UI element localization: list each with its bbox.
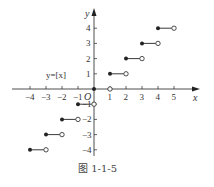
x-tick-label: 1: [108, 92, 113, 102]
x-tick-label: −2: [57, 92, 67, 102]
origin-label: O: [84, 91, 91, 102]
step-segment: [156, 26, 176, 30]
open-endpoint-icon: [44, 148, 48, 152]
open-endpoint-icon: [92, 102, 96, 106]
step-segment: [44, 132, 64, 136]
function-label: y=[x]: [46, 70, 66, 80]
closed-endpoint-icon: [28, 148, 32, 152]
open-endpoint-icon: [60, 132, 64, 136]
closed-endpoint-icon: [92, 87, 96, 91]
open-endpoint-icon: [156, 41, 160, 45]
y-tick-label: 2: [86, 54, 91, 64]
step-segment: [140, 41, 160, 45]
closed-endpoint-icon: [76, 102, 80, 106]
open-endpoint-icon: [140, 56, 144, 60]
open-endpoint-icon: [108, 87, 112, 91]
x-tick-label: −3: [41, 92, 51, 102]
x-tick-label: −4: [25, 92, 35, 102]
x-tick-label: 4: [156, 92, 161, 102]
closed-endpoint-icon: [140, 41, 144, 45]
closed-endpoint-icon: [108, 72, 112, 76]
closed-endpoint-icon: [124, 57, 128, 61]
y-tick-label: 3: [86, 38, 91, 48]
y-tick-label: −4: [82, 145, 92, 155]
x-tick-label: 3: [140, 92, 145, 102]
open-endpoint-icon: [124, 72, 128, 76]
y-axis-label: y: [84, 8, 90, 19]
figure-caption: 图 1-1-5: [0, 160, 214, 175]
step-function-chart: −4−3−2−112345−4−3−2−11234 x y O y=[x]: [0, 0, 214, 160]
y-tick-label: −2: [82, 114, 92, 124]
x-axis-arrow-icon: [192, 87, 200, 92]
closed-endpoint-icon: [60, 117, 64, 121]
step-segment: [108, 72, 128, 76]
step-segment: [124, 56, 144, 60]
open-endpoint-icon: [76, 117, 80, 121]
x-tick-label: 2: [124, 92, 129, 102]
y-tick-label: −3: [82, 130, 92, 140]
y-axis-arrow-icon: [92, 8, 97, 16]
closed-endpoint-icon: [44, 133, 48, 137]
y-tick-label: 1: [86, 69, 91, 79]
open-endpoint-icon: [172, 26, 176, 30]
x-axis-label: x: [192, 92, 198, 103]
step-segment: [60, 117, 80, 121]
x-tick-label: 5: [172, 92, 177, 102]
step-segment: [28, 148, 48, 152]
closed-endpoint-icon: [156, 26, 160, 30]
axes: [12, 8, 200, 156]
y-tick-label: 4: [86, 23, 91, 33]
